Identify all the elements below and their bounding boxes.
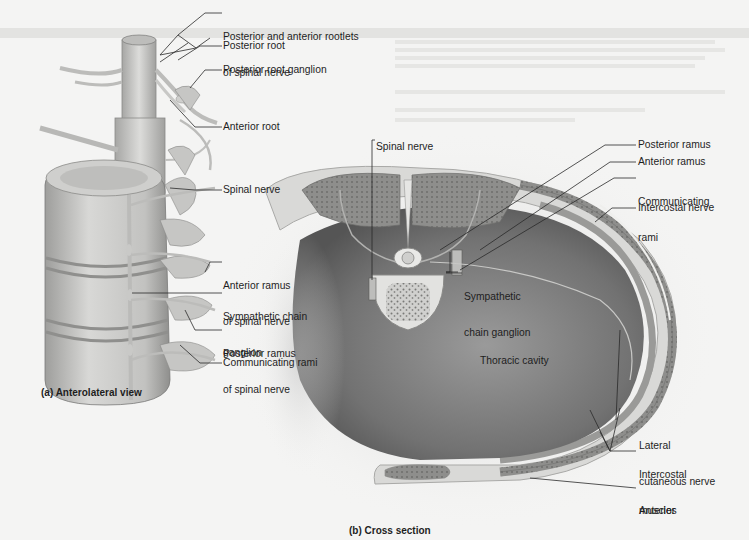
label-anterior-ramus-b: Anterior ramus (638, 156, 706, 168)
label-posterior-root-ganglion: Posterior root ganglion (223, 64, 327, 76)
label-sympathetic-chain-a-line1: Sympathetic chain (223, 311, 307, 323)
label-thoracic-cavity: Thoracic cavity (480, 355, 549, 367)
label-sympathetic-chain-b-line2: chain ganglion (464, 327, 530, 339)
label-spinal-nerve-a: Spinal nerve (223, 184, 280, 196)
spinal-nerve-illustration (0, 0, 749, 540)
label-posterior-ramus-a-line2: of spinal nerve (223, 384, 296, 396)
anterolateral-view-group (40, 35, 217, 405)
label-anterior-cutaneous-nerve: Anterior cutaneous nerve (639, 481, 715, 540)
label-sympathetic-chain-b-line1: Sympathetic (464, 291, 530, 303)
label-intercostal-nerve: Intercostal nerve (638, 202, 714, 214)
label-posterior-ramus-b: Posterior ramus (638, 139, 711, 151)
label-spinal-nerve-b: Spinal nerve (376, 141, 433, 153)
label-communicating-rami-a: Communicating rami (223, 357, 317, 369)
caption-cross-section: (b) Cross section (349, 525, 431, 536)
label-communicating-rami-b: Communicating rami (638, 172, 710, 256)
label-communicating-rami-b-line2: rami (638, 232, 710, 244)
caption-anterolateral-view: (a) Anterolateral view (41, 387, 142, 398)
label-intercostal-muscles-line1: Intercostal (639, 469, 687, 481)
label-anterior-cutaneous-line1: Anterior (639, 505, 715, 517)
label-anterior-root: Anterior root (223, 121, 280, 133)
label-sympathetic-chain-ganglion-b: Sympathetic chain ganglion (464, 267, 530, 351)
label-posterior-root: Posterior root (223, 40, 285, 52)
